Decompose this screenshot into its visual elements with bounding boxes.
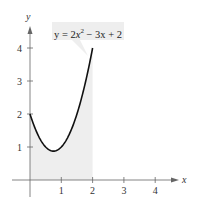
x-axis-arrow-icon	[171, 178, 179, 183]
shaded-region	[30, 48, 93, 180]
annotation-pointer	[72, 40, 88, 56]
x-tick-label: 1	[59, 185, 64, 196]
y-tick-label: 4	[17, 43, 22, 54]
equation-label: y = 2x2 − 3x + 2	[52, 22, 124, 40]
x-tick-label: 2	[90, 185, 95, 196]
y-tick-label: 1	[17, 142, 22, 153]
y-axis-arrow-icon	[28, 26, 33, 34]
x-tick-label: 4	[153, 185, 158, 196]
y-axis-label: y	[25, 11, 31, 22]
y-tick-label: 3	[17, 76, 22, 87]
x-tick-label: 3	[121, 185, 126, 196]
y-tick-label: 2	[17, 109, 22, 120]
x-axis-label: x	[181, 174, 187, 185]
